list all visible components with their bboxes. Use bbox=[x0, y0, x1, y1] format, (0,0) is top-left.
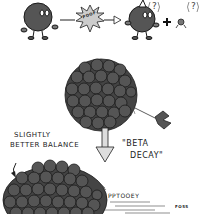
nucleus-before bbox=[65, 59, 137, 131]
poof-burst bbox=[76, 5, 104, 32]
better-balance-label: BETTER BALANCE bbox=[10, 141, 79, 149]
decay-label: DECAY" bbox=[130, 151, 163, 160]
pptooey-label: PPTOOEY bbox=[108, 192, 139, 199]
cartoon-drawing: ? ? bbox=[0, 0, 201, 214]
beta-particle bbox=[155, 111, 171, 129]
electron-character bbox=[176, 19, 186, 28]
neutron-character bbox=[21, 3, 58, 40]
artist-signature: FOSS bbox=[175, 204, 189, 209]
nucleus-after bbox=[3, 160, 107, 214]
slightly-label: SLIGHTLY bbox=[14, 131, 51, 139]
down-arrow bbox=[96, 128, 114, 162]
beta-label: "BETA bbox=[122, 139, 148, 148]
question-mark-2: ? bbox=[191, 1, 196, 11]
question-mark-1: ? bbox=[152, 1, 157, 11]
beta-decay-cartoon: ? ? bbox=[0, 0, 201, 214]
plus-sign bbox=[163, 18, 171, 26]
